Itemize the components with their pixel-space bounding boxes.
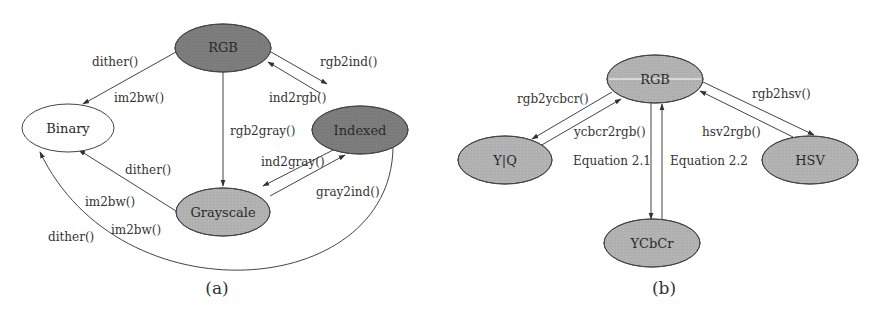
label-gray2ind: gray2ind() [316,185,380,199]
edge-rgb-to-indexed [271,52,327,84]
label-ycbcr2rgb: ycbcr2rgb() [573,125,646,139]
label-ind2rgb: ind2rgb() [269,91,326,105]
label-gray-binary-im2bw: im2bw() [85,195,135,209]
node-hsv-label: HSV [795,153,825,168]
label-rgb-binary-im2bw: im2bw() [114,91,164,105]
label-gray-binary-dither: dither() [125,163,171,177]
node-rgb-label: RGB [208,40,238,55]
label-hsv2rgb: hsv2rgb() [702,125,761,139]
node-rgb-b-label: RGB [640,72,670,87]
node-indexed-label: Indexed [334,123,387,138]
label-rgb2ind: rgb2ind() [320,55,377,69]
label-ind2gray: ind2gray() [261,155,325,169]
node-grayscale-label: Grayscale [190,205,256,220]
label-indexed-binary-im2bw: im2bw() [111,223,161,237]
node-binary-label: Binary [46,121,90,136]
label-indexed-binary-dither: dither() [48,230,94,244]
label-equation-2-1: Equation 2.1 [573,154,651,168]
label-rgb2ycbcr: rgb2ycbcr() [517,92,589,106]
node-ycbcr-label: YCbCr [630,236,675,251]
diagram-canvas: RGB Binary Indexed Grayscale dither() im… [0,0,885,319]
node-yiq-label: Y|Q [492,153,517,168]
diagram-a: RGB Binary Indexed Grayscale dither() im… [22,24,408,298]
label-rgb2hsv: rgb2hsv() [752,87,811,101]
diagram-b: RGB Y|Q YCbCr HSV rgb2ycbcr() ycbcr2rgb(… [458,55,858,298]
edge-indexed-to-rgb [268,62,320,93]
label-rgb2gray: rgb2gray() [230,124,295,138]
caption-a: (a) [205,278,228,298]
label-rgb-binary-dither: dither() [92,55,138,69]
label-equation-2-2: Equation 2.2 [670,154,748,168]
caption-b: (b) [652,278,676,298]
